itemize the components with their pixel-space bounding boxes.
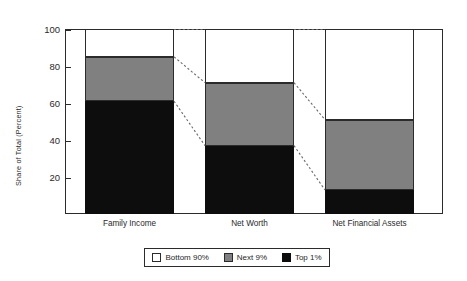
segment-top-1-net-financial-assets [325,190,414,214]
bar-family-income[interactable] [85,29,174,214]
chart-legend: Bottom 90% Next 9% Top 1% [144,248,330,267]
y-tick-mark-40 [65,141,71,142]
segment-bottom-90-family-income [85,29,174,57]
segment-top-1-family-income [85,101,174,214]
legend-item-top-1[interactable]: Top 1% [282,253,322,262]
category-label-net-worth: Net Worth [205,219,294,228]
segment-top-1-net-worth [205,146,294,214]
legend-label-next-9: Next 9% [237,253,267,262]
stacked-bar-chart-figure: Share of Total (Percent) 100 80 60 40 20 [0,0,467,281]
legend-swatch-bottom-90 [152,253,161,262]
y-tick-label-100: 100 [34,24,60,35]
legend-swatch-top-1 [282,253,291,262]
segment-bottom-90-net-worth [205,29,294,83]
legend-item-bottom-90[interactable]: Bottom 90% [152,253,209,262]
segment-next-9-net-worth [205,83,294,146]
y-tick-mark-20 [65,178,71,179]
segment-next-9-net-financial-assets [325,120,414,190]
y-tick-mark-80 [65,67,71,68]
legend-item-next-9[interactable]: Next 9% [224,253,267,262]
bar-net-worth[interactable] [205,29,294,214]
y-tick-mark-60 [65,104,71,105]
category-label-family-income: Family Income [85,219,174,228]
bar-net-financial-assets[interactable] [325,29,414,214]
y-axis-title: Share of Total (Percent) [14,46,28,186]
category-label-net-financial-assets: Net Financial Assets [315,219,424,228]
y-tick-label-20: 20 [34,172,60,183]
y-tick-mark-100 [65,30,71,31]
segment-next-9-family-income [85,57,174,101]
legend-swatch-next-9 [224,253,233,262]
y-tick-label-60: 60 [34,98,60,109]
legend-label-top-1: Top 1% [295,253,322,262]
y-tick-label-80: 80 [34,61,60,72]
segment-bottom-90-net-financial-assets [325,29,414,120]
legend-label-bottom-90: Bottom 90% [165,253,209,262]
y-tick-label-40: 40 [34,135,60,146]
